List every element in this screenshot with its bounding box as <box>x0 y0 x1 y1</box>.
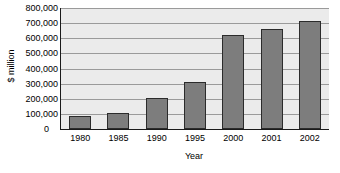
y-axis-tick-label: 800,000 <box>25 3 58 13</box>
x-axis-tick-label: 2001 <box>252 133 290 143</box>
bar-slot <box>252 8 290 129</box>
x-axis-tick-label: 1995 <box>176 133 214 143</box>
x-axis-tick-label: 1985 <box>99 133 137 143</box>
bar-slot <box>214 8 252 129</box>
y-axis-tick-labels: 100,000200,000300,000400,000500,000600,0… <box>14 8 60 129</box>
x-axis-tick-label: 1990 <box>138 133 176 143</box>
y-axis-tick-label: 400,000 <box>25 64 58 74</box>
bar <box>261 29 283 129</box>
bar-slot <box>291 8 329 129</box>
bar-chart-figure: $ million 100,000200,000300,000400,00050… <box>0 0 340 173</box>
x-axis-tick-label: 2000 <box>214 133 252 143</box>
x-axis-tick-label: 1980 <box>61 133 99 143</box>
bar <box>222 35 244 129</box>
y-axis-tick-label: 200,000 <box>25 94 58 104</box>
y-axis-tick-label: 100,000 <box>25 109 58 119</box>
y-axis-tick-label: 300,000 <box>25 79 58 89</box>
bar <box>69 116 91 129</box>
x-axis-tick-label: 2002 <box>291 133 329 143</box>
bars-group <box>61 8 329 129</box>
bar <box>146 98 168 129</box>
bar-slot <box>99 8 137 129</box>
y-axis-tick-label: 500,000 <box>25 48 58 58</box>
bar <box>107 113 129 129</box>
bar <box>184 82 206 129</box>
x-axis-title: Year <box>60 151 328 161</box>
y-axis-tick-label: 700,000 <box>25 18 58 28</box>
bar-slot <box>61 8 99 129</box>
y-axis-tick-label: 600,000 <box>25 33 58 43</box>
plot-area <box>60 8 329 130</box>
bar <box>299 21 321 129</box>
y-axis-zero-label: 0 <box>44 124 49 134</box>
bar-slot <box>176 8 214 129</box>
x-axis-tick-labels: 1980198519901995200020012002 <box>61 133 329 147</box>
bar-slot <box>138 8 176 129</box>
